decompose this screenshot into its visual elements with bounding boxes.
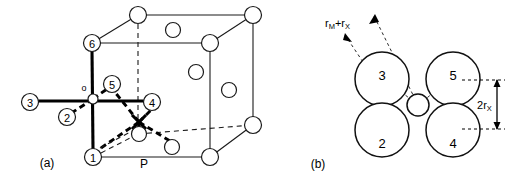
face-atom-bottom-right (165, 140, 180, 155)
atom-3-label: 3 (27, 97, 33, 109)
panel-a-caption: (a) (40, 156, 55, 170)
atom-5-label: 5 (109, 79, 115, 91)
atom-6: 6 (84, 35, 101, 52)
corner-atom-top-back-left (130, 7, 147, 24)
face-atom-top (166, 23, 181, 38)
face-atom-lower-center (132, 127, 147, 142)
sphere-3: 3 (355, 52, 409, 106)
rm-rx-sub-x: X (345, 21, 350, 30)
corner-atom-bottom-front-right (202, 149, 219, 166)
sphere-5: 5 (426, 52, 480, 106)
crystal-structure-figure: o 1 2 3 4 (0, 0, 529, 181)
atom-1: 1 (85, 149, 102, 166)
atom-5: 5 (104, 76, 121, 93)
face-atom-upper-right (189, 65, 204, 80)
atom-2-label: 2 (64, 112, 70, 124)
origin-label: o (81, 83, 86, 93)
atom-3: 3 (22, 94, 39, 111)
sphere-4: 4 (426, 103, 480, 157)
sphere-5-label: 5 (449, 68, 456, 83)
sphere-2-label: 2 (378, 136, 385, 151)
atom-6-label: 6 (89, 38, 95, 50)
corner-atom-top-front-right (202, 35, 219, 52)
p-label: P (140, 157, 148, 171)
face-atom-right (222, 83, 237, 98)
origin-site-marker (88, 94, 98, 104)
sphere-4-label: 4 (449, 136, 456, 151)
atom-2: 2 (59, 109, 76, 126)
atom-1-label: 1 (90, 152, 96, 164)
sphere-2: 2 (355, 103, 409, 157)
dim-2rx-sub: X (487, 103, 492, 112)
corner-atom-bottom-back-right (245, 117, 262, 134)
panel-b-caption: (b) (311, 157, 326, 171)
sphere-3-label: 3 (378, 68, 385, 83)
central-interstitial-sphere (407, 94, 429, 116)
atom-4: 4 (144, 94, 161, 111)
figure-container: o 1 2 3 4 (0, 0, 529, 181)
corner-atom-top-back-right (245, 7, 262, 24)
atom-4-label: 4 (149, 97, 155, 109)
